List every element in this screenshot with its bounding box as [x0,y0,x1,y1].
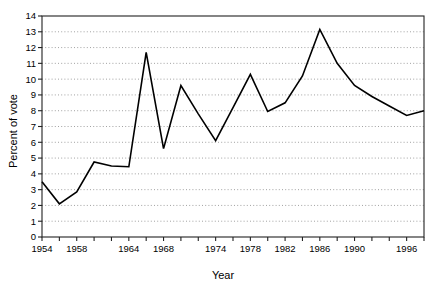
chart-container: 01234567891011121314 1954195819641968197… [0,0,445,285]
x-tick-label: 1990 [344,243,365,254]
y-tick-label: 0 [31,231,36,242]
y-tick-label: 11 [26,58,36,69]
y-tick-label: 1 [31,216,36,227]
x-tick-label: 1974 [205,243,226,254]
y-tick-label: 12 [25,42,36,53]
x-tick-label: 1968 [153,243,174,254]
y-tick-label: 10 [25,74,36,85]
y-tick-label: 7 [31,121,36,132]
y-tick-label: 8 [31,105,36,116]
y-tick-label: 3 [31,184,36,195]
x-axis-title: Year [212,269,235,281]
x-tick-label: 1954 [31,243,52,254]
y-tick-label: 5 [31,152,36,163]
y-tick-label: 2 [31,200,36,211]
x-tick-label: 1982 [275,243,296,254]
y-tick-label: 13 [25,26,36,37]
y-tick-label: 6 [31,137,36,148]
x-tick-label: 1978 [240,243,261,254]
x-tick-label: 1986 [309,243,330,254]
y-tick-label: 9 [31,89,36,100]
y-tick-label: 14 [25,10,36,21]
line-chart: 01234567891011121314 1954195819641968197… [0,0,445,285]
y-axis-title: Percent of vote [7,94,19,168]
x-tick-label: 1964 [118,243,139,254]
y-tick-label: 4 [31,168,36,179]
x-tick-label: 1996 [396,243,417,254]
x-tick-label: 1958 [66,243,87,254]
